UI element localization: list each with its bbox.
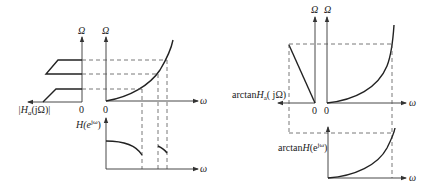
digital-omega-label: ω [200, 163, 207, 174]
digital-magnitude-passband-2 [158, 146, 167, 153]
analog-omega-label: Ω [311, 4, 318, 15]
digital-phase-response [328, 128, 395, 178]
digital-magnitude-passband [106, 141, 142, 155]
analog-phase-response [289, 45, 315, 103]
digital-magnitude-label: H(ejω) [75, 118, 101, 131]
analog-magnitude-passband-upper [46, 60, 82, 74]
warping-curve [106, 40, 173, 101]
bilinear-warping-diagram: Ω Ω |Ha(jΩ)| 0 0 ω H(ejω) ω Ω Ω arctanHa… [0, 0, 425, 193]
mapping-origin-label: 0 [103, 104, 108, 115]
warping-curve [327, 25, 394, 103]
mapping-origin-label: 0 [324, 105, 329, 116]
digital-phase-label: arctanH(ejω) [278, 141, 327, 154]
mapping-omega-label: Ω [102, 25, 109, 36]
analog-origin-label: 0 [79, 104, 84, 115]
analog-magnitude-label: |Ha(jΩ)| [18, 104, 50, 117]
analog-origin-label: 0 [312, 105, 317, 116]
digital-omega-label: ω [409, 172, 416, 183]
analog-phase-label: arctanHa( jΩ) [232, 89, 286, 102]
mapping-omega-digital-label: ω [200, 95, 207, 106]
analog-magnitude-passband-lower [43, 89, 82, 102]
right-panel: Ω Ω arctanHa( jΩ) 0 0 ω arctanH(ejω) ω [232, 4, 416, 183]
mapping-omega-label: Ω [324, 4, 331, 15]
left-panel: Ω Ω |Ha(jΩ)| 0 0 ω H(ejω) ω [18, 25, 207, 174]
mapping-omega-digital-label: ω [409, 97, 416, 108]
analog-omega-label: Ω [78, 25, 85, 36]
